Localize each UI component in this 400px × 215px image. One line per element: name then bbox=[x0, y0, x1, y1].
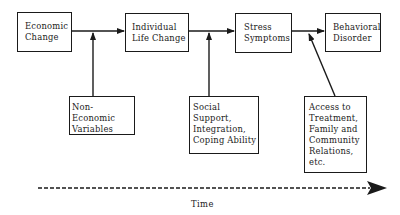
box-individual-life-change: Individual Life Change bbox=[125, 13, 189, 52]
box-label: Behavioral Disorder bbox=[333, 22, 380, 44]
box-stress-symptoms: Stress Symptoms bbox=[235, 13, 292, 53]
box-non-economic-variables: Non-Economic Variables bbox=[69, 96, 135, 135]
time-axis-label: Time bbox=[191, 199, 214, 209]
box-social-support: Social Support, Integration, Coping Abil… bbox=[189, 96, 259, 154]
box-label: Social Support, Integration, Coping Abil… bbox=[193, 102, 258, 146]
box-economic-change: Economic Change bbox=[17, 12, 72, 52]
box-behavioral-disorder: Behavioral Disorder bbox=[325, 13, 381, 52]
box-label: Individual Life Change bbox=[132, 22, 188, 44]
box-label: Access to Treatment, Family and Communit… bbox=[309, 102, 366, 168]
box-access-to-treatment: Access to Treatment, Family and Communit… bbox=[304, 96, 367, 173]
box-label: Economic Change bbox=[25, 21, 71, 43]
box-label: Stress Symptoms bbox=[244, 22, 291, 44]
box-label: Non-Economic Variables bbox=[72, 102, 134, 135]
